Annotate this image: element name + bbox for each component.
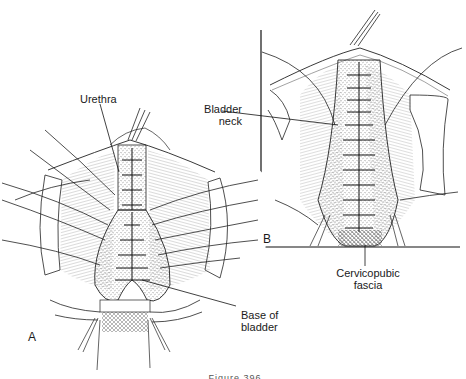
label-cervicopubic-line1: Cervicopubic [333, 267, 403, 279]
figure-caption: Figure 396 [190, 372, 280, 379]
label-base-line1: Base of [241, 309, 278, 321]
label-base-line2: bladder [241, 321, 278, 333]
label-bladder-neck: Bladder neck [200, 103, 242, 127]
panel-b-drawing [262, 10, 462, 246]
panel-a-drawing [2, 108, 270, 370]
panel-label-a: A [28, 330, 36, 344]
panel-label-b: B [263, 232, 271, 246]
label-base-of-bladder: Base of bladder [241, 309, 278, 333]
label-bladder-neck-line2: neck [200, 115, 242, 127]
label-cervicopubic-fascia: Cervicopubic fascia [333, 267, 403, 291]
label-bladder-neck-line1: Bladder [200, 103, 242, 115]
surgical-illustration [0, 0, 466, 379]
label-urethra: Urethra [80, 93, 117, 105]
label-cervicopubic-line2: fascia [333, 279, 403, 291]
